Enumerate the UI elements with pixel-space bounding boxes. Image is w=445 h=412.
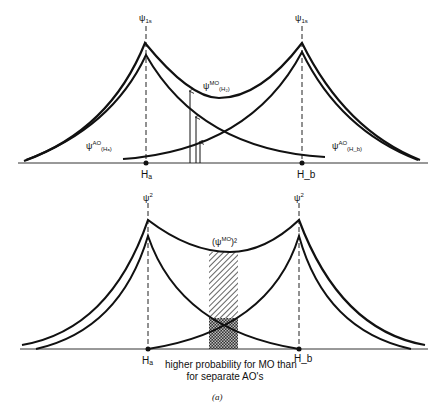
nucleus-b-label: H_b — [297, 170, 315, 180]
superscript: 2 — [300, 192, 303, 198]
crosshatched-overlap — [209, 318, 238, 349]
subscript: 1s — [145, 18, 151, 24]
bottom-panel — [20, 203, 428, 352]
superscript: MO — [221, 236, 231, 242]
caption-line-2: for separate AO's — [165, 371, 285, 383]
ao-a-squared-curve — [36, 236, 299, 349]
psi-symbol: (ψ — [212, 237, 221, 247]
peak-label-a: ψ1s — [139, 14, 152, 24]
psi-squared-label-b: ψ2 — [294, 192, 304, 203]
subscript: 1s — [301, 18, 307, 24]
peak-label-b: ψ1s — [295, 14, 308, 24]
ao-a-curve — [26, 55, 325, 160]
nucleus-b2-dot — [297, 347, 302, 352]
ao-b-squared-curve — [148, 236, 411, 349]
squared-suffix: )² — [231, 237, 237, 247]
superscript: 2 — [149, 192, 152, 198]
nucleus-a2-dot — [146, 347, 151, 352]
superscript: MO — [209, 80, 219, 86]
subscript: (H₂) — [219, 86, 230, 92]
nucleus-a2-label: Hₐ — [142, 356, 153, 366]
caption: higher probability for MO than for separ… — [165, 359, 285, 383]
mo-squared-label: (ψMO)² — [212, 236, 237, 247]
superscript: AO — [92, 140, 101, 146]
subscript: (H_b) — [347, 146, 362, 152]
mo-label: ψMO(H₂) — [203, 80, 230, 92]
nucleus-a-label: Hₐ — [141, 170, 152, 180]
ao-a-label: ψAO(Hₐ) — [86, 140, 112, 152]
nucleus-a-dot — [144, 161, 149, 166]
caption-line-1: higher probability for MO than — [165, 359, 285, 371]
ao-b-label: ψAO(H_b) — [332, 140, 362, 152]
nucleus-b2-label: H_b — [294, 354, 312, 364]
nucleus-b-dot — [300, 161, 305, 166]
superscript: AO — [338, 140, 347, 146]
psi-squared-label-a: ψ2 — [143, 192, 153, 203]
orbital-diagram — [0, 0, 445, 412]
top-panel — [18, 26, 428, 166]
subscript: (Hₐ) — [101, 146, 112, 152]
figure-label: (a) — [212, 392, 223, 402]
